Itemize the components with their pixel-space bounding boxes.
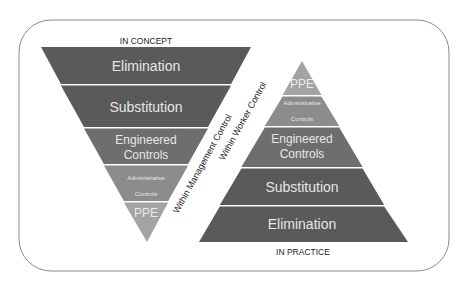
concept-label-substitution: Substitution	[109, 99, 182, 115]
practice-label-administrative-1: Administrative	[283, 100, 321, 106]
concept-label-administrative-2: Controls	[135, 191, 157, 197]
practice-label-ppe: PPE	[290, 77, 314, 91]
concept-label-engineered-1: Engineered	[115, 133, 176, 147]
practice-label-elimination: Elimination	[268, 216, 336, 232]
in-practice-title: IN PRACTICE	[276, 247, 330, 257]
practice-label-engineered-1: Engineered	[271, 132, 332, 146]
hierarchy-of-controls-diagram: IN CONCEPT Elimination Substitution Engi…	[0, 0, 466, 286]
practice-label-engineered-2: Controls	[280, 147, 325, 161]
concept-label-ppe: PPE	[134, 206, 158, 220]
practice-label-substitution: Substitution	[265, 179, 338, 195]
concept-label-engineered-2: Controls	[124, 148, 169, 162]
concept-label-elimination: Elimination	[112, 58, 180, 74]
practice-label-administrative-2: Controls	[291, 116, 313, 122]
in-concept-title: IN CONCEPT	[120, 36, 172, 46]
concept-label-administrative-1: Administrative	[127, 175, 165, 181]
